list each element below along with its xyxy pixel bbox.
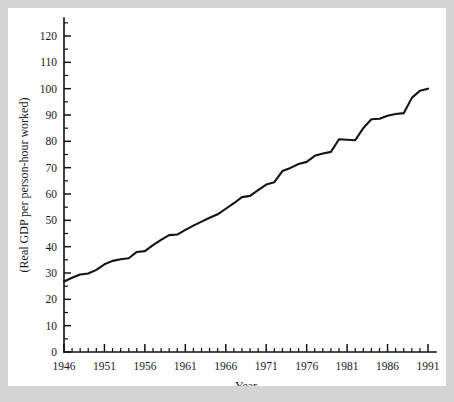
y-tick-label: 70 bbox=[46, 162, 58, 174]
y-tick-label: 0 bbox=[51, 346, 57, 358]
y-axis-title: (Real GDP per person-hour worked) bbox=[17, 98, 31, 273]
x-tick-label: 1976 bbox=[295, 360, 318, 372]
x-tick-label: 1951 bbox=[93, 360, 116, 372]
y-tick-label: 10 bbox=[46, 320, 58, 332]
x-axis-title: Year bbox=[235, 379, 257, 386]
x-tick-label: 1946 bbox=[53, 360, 76, 372]
y-tick-label: 90 bbox=[46, 109, 58, 121]
x-tick-label: 1971 bbox=[255, 360, 278, 372]
x-tick-label: 1991 bbox=[417, 360, 440, 372]
y-tick-label: 110 bbox=[40, 56, 57, 68]
x-tick-label: 1961 bbox=[174, 360, 197, 372]
line-chart: 0102030405060708090100110120194619511956… bbox=[8, 8, 446, 386]
y-tick-label: 30 bbox=[46, 267, 58, 279]
y-tick-label: 120 bbox=[40, 30, 58, 42]
chart-page: 0102030405060708090100110120194619511956… bbox=[0, 0, 454, 402]
x-tick-label: 1956 bbox=[133, 360, 156, 372]
figure-panel: 0102030405060708090100110120194619511956… bbox=[8, 8, 446, 386]
y-tick-label: 40 bbox=[46, 241, 58, 253]
y-tick-label: 60 bbox=[46, 188, 58, 200]
x-tick-label: 1986 bbox=[376, 360, 399, 372]
y-tick-label: 100 bbox=[40, 83, 58, 95]
y-tick-label: 80 bbox=[46, 135, 58, 147]
y-tick-label: 20 bbox=[46, 293, 58, 305]
x-tick-label: 1981 bbox=[336, 360, 359, 372]
y-tick-label: 50 bbox=[46, 214, 58, 226]
x-tick-label: 1966 bbox=[214, 360, 237, 372]
data-series-line bbox=[64, 89, 428, 282]
